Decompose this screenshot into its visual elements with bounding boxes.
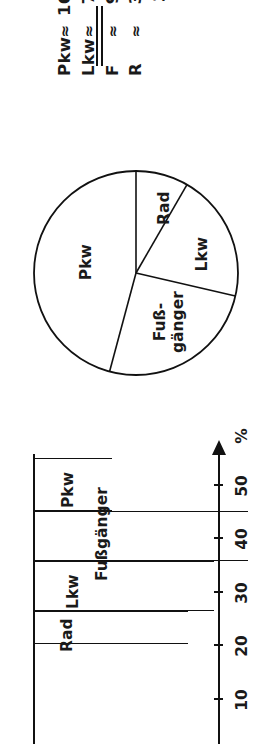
angle-total-value: 360°	[149, 0, 171, 6]
value-axis-arrow-icon	[212, 440, 226, 455]
axis-tick-10	[214, 698, 223, 700]
bar-label-fussgaenger: Fußgänger	[57, 514, 147, 558]
axis-tick-label-50: 50	[228, 474, 256, 498]
axis-tick-20	[214, 644, 223, 646]
sum-double-rule	[96, 6, 103, 66]
axis-tick-label-40: 40	[228, 527, 256, 551]
angle-table: Pkw ≈ 165° Lkw ≈ 73° F ≈ 92° R ≈ 30° 360…	[0, 0, 140, 130]
pie-label-lkw: Lkw	[179, 246, 225, 262]
axis-tick-label-20: 20	[228, 634, 256, 658]
axis-tick-30	[214, 591, 223, 593]
angle-total: 360°	[101, 6, 219, 28]
axis-tick-label-10: 10	[228, 688, 256, 712]
pie-label-pkw: Pkw	[63, 254, 109, 270]
value-axis-line	[218, 452, 220, 744]
axis-unit-label: %	[228, 424, 256, 448]
axis-tick-50	[214, 484, 223, 486]
angle-row-name: Pkw	[54, 42, 76, 76]
bar-label-lkw: Lkw	[50, 564, 96, 608]
bar-label-rad: Rad	[44, 614, 90, 644]
axis-tick-40	[214, 537, 223, 539]
bar-chart: Pkw Fußgänger Lkw Rad 10 20 30 40 50 %	[0, 430, 265, 744]
pie-label-rad: Rad	[141, 200, 187, 216]
angle-row-name: R	[125, 42, 147, 76]
pie-label-fussgaenger: Fuß- gänger	[137, 304, 199, 344]
pie-chart: Rad Lkw Fuß- gänger Pkw	[33, 170, 239, 376]
angle-row-name: F	[102, 42, 124, 76]
axis-tick-label-30: 30	[228, 581, 256, 605]
